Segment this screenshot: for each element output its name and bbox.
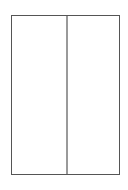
left-pane xyxy=(12,16,66,174)
panel-frame xyxy=(11,15,120,175)
right-pane xyxy=(68,16,119,174)
